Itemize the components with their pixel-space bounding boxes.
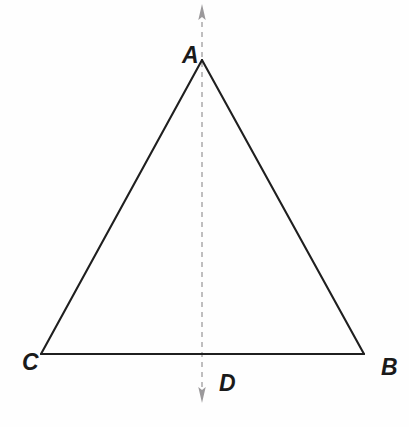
geometry-figure: A C B D xyxy=(0,0,409,427)
arrow-up-icon xyxy=(198,4,205,20)
vertex-label-a: A xyxy=(182,44,199,67)
vertex-label-b: B xyxy=(381,356,398,379)
vertex-label-c: C xyxy=(22,351,39,374)
diagram-canvas xyxy=(0,0,409,427)
vertex-label-d: D xyxy=(219,372,236,395)
arrow-down-icon xyxy=(198,387,205,403)
triangle-side-ca xyxy=(41,60,202,354)
triangle-side-ab xyxy=(202,60,364,354)
